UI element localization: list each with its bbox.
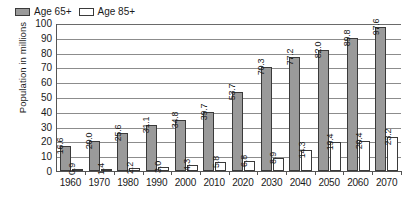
x-axis-tick-mark <box>343 171 344 175</box>
y-axis-tick-labels: 1009080706050403020100 <box>22 19 52 173</box>
bar-value-label: 20.4 <box>355 132 364 149</box>
bar-value-label: 89.8 <box>343 30 352 47</box>
y-tick-90: 90 <box>22 34 52 44</box>
y-tick-100: 100 <box>22 19 52 29</box>
x-tick-1970: 1970 <box>85 177 114 193</box>
bar-value-label: 5.8 <box>212 156 221 168</box>
y-tick-50: 50 <box>22 93 52 103</box>
bar-2070-series-2[interactable]: 23.2 <box>387 137 398 171</box>
legend-label-age-85: Age 85+ <box>98 6 136 17</box>
bar-value-label: 14.3 <box>298 141 307 158</box>
legend-label-age-65: Age 65+ <box>34 6 72 17</box>
bar-value-label: 31.1 <box>142 117 151 134</box>
x-tick-2060: 2060 <box>344 177 373 193</box>
bar-value-label: 82.0 <box>314 41 323 58</box>
population-bar-chart: Population in millions 10090807060504030… <box>0 0 412 207</box>
y-tick-30: 30 <box>22 123 52 133</box>
bar-value-label: 97.6 <box>372 18 381 35</box>
bar-2060-series-1[interactable]: 89.8 <box>347 38 358 171</box>
x-tick-2000: 2000 <box>171 177 200 193</box>
x-axis-tick-mark <box>171 171 172 175</box>
y-tick-60: 60 <box>22 78 52 88</box>
bar-value-label: 3.0 <box>154 161 163 173</box>
bar-group-1960: 16.60.9 <box>57 24 86 171</box>
bar-value-label: 39.7 <box>200 104 209 121</box>
bar-1960-series-2[interactable]: 0.9 <box>72 169 83 171</box>
bar-2060-series-2[interactable]: 20.4 <box>359 141 370 171</box>
bar-value-label: 19.4 <box>326 134 335 151</box>
bar-value-label: 6.8 <box>240 155 249 167</box>
x-tick-1990: 1990 <box>142 177 171 193</box>
bar-value-label: 77.2 <box>286 48 295 65</box>
bar-2070-series-1[interactable]: 97.6 <box>375 27 386 171</box>
x-axis-tick-mark <box>315 171 316 175</box>
x-tick-2070: 2070 <box>372 177 401 193</box>
bar-group-2020: 53.76.8 <box>229 24 258 171</box>
bar-value-label: 0.9 <box>68 163 77 175</box>
x-tick-2020: 2020 <box>229 177 258 193</box>
y-tick-40: 40 <box>22 108 52 118</box>
x-tick-1980: 1980 <box>114 177 143 193</box>
plot-area: 16.60.920.01.425.62.231.13.034.84.339.75… <box>56 24 401 172</box>
bar-value-label: 25.6 <box>114 125 123 142</box>
y-tick-70: 70 <box>22 63 52 73</box>
bar-value-label: 4.3 <box>183 159 192 171</box>
x-tick-1960: 1960 <box>56 177 85 193</box>
bar-2010-series-2[interactable]: 5.8 <box>215 162 226 171</box>
x-axis-tick-mark <box>114 171 115 175</box>
bar-value-label: 34.8 <box>171 111 180 128</box>
bar-group-2060: 89.820.4 <box>344 24 373 171</box>
gray-filled-swatch-icon <box>15 8 30 16</box>
bar-group-1990: 31.13.0 <box>143 24 172 171</box>
x-axis-tick-mark <box>401 171 402 175</box>
bar-group-2000: 34.84.3 <box>172 24 201 171</box>
bar-group-1970: 20.01.4 <box>86 24 115 171</box>
x-axis-tick-mark <box>257 171 258 175</box>
bar-1980-series-2[interactable]: 2.2 <box>129 168 140 171</box>
x-tick-2040: 2040 <box>286 177 315 193</box>
bar-value-label: 16.6 <box>56 138 65 155</box>
x-axis-tick-labels: 1960197019801990200020102020203020402050… <box>56 177 401 193</box>
bar-groups: 16.60.920.01.425.62.231.13.034.84.339.75… <box>57 24 401 171</box>
y-tick-20: 20 <box>22 137 52 147</box>
bar-2020-series-2[interactable]: 6.8 <box>244 161 255 171</box>
bar-value-label: 53.7 <box>228 83 237 100</box>
x-axis-tick-mark <box>286 171 287 175</box>
bar-2040-series-2[interactable]: 14.3 <box>301 150 312 171</box>
x-axis-tick-mark <box>200 171 201 175</box>
bar-2030-series-2[interactable]: 8.9 <box>273 158 284 171</box>
bar-group-1980: 25.62.2 <box>114 24 143 171</box>
y-tick-80: 80 <box>22 49 52 59</box>
bar-group-2010: 39.75.8 <box>200 24 229 171</box>
y-tick-0: 0 <box>22 167 52 177</box>
y-tick-10: 10 <box>22 152 52 162</box>
bar-1970-series-2[interactable]: 1.4 <box>101 169 112 171</box>
bar-value-label: 23.2 <box>384 128 393 145</box>
bar-2000-series-2[interactable]: 4.3 <box>187 165 198 171</box>
x-axis-tick-mark <box>143 171 144 175</box>
bar-group-2040: 77.214.3 <box>286 24 315 171</box>
bar-group-2030: 70.38.9 <box>258 24 287 171</box>
x-tick-2030: 2030 <box>257 177 286 193</box>
x-axis-tick-mark <box>85 171 86 175</box>
bar-2050-series-1[interactable]: 82.0 <box>318 50 329 171</box>
bar-value-label: 1.4 <box>97 163 106 175</box>
bar-value-label: 70.3 <box>257 59 266 76</box>
bar-1990-series-2[interactable]: 3.0 <box>158 167 169 171</box>
bar-group-2050: 82.019.4 <box>315 24 344 171</box>
bar-value-label: 20.0 <box>85 133 94 150</box>
bar-value-label: 2.2 <box>126 162 135 174</box>
legend-item-age-85: Age 85+ <box>79 6 136 17</box>
x-axis-tick-mark <box>372 171 373 175</box>
x-axis-tick-mark <box>229 171 230 175</box>
chart-legend: Age 65+ Age 85+ <box>11 5 139 18</box>
bar-2050-series-2[interactable]: 19.4 <box>330 142 341 171</box>
x-tick-2010: 2010 <box>200 177 229 193</box>
x-tick-2050: 2050 <box>315 177 344 193</box>
white-open-swatch-icon <box>79 8 94 16</box>
bar-value-label: 8.9 <box>269 152 278 164</box>
bar-group-2070: 97.623.2 <box>372 24 401 171</box>
legend-item-age-65: Age 65+ <box>15 6 72 17</box>
